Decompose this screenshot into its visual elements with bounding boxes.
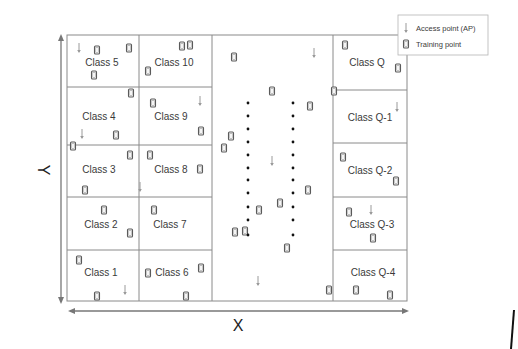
training-point-icon: [354, 286, 359, 294]
class-label: Class 2: [84, 219, 118, 230]
training-point-icon: [188, 41, 193, 49]
training-point-icon: [95, 292, 100, 300]
training-point-icon: [77, 256, 82, 264]
access-point-icon: [270, 156, 274, 166]
training-point-icon: [152, 206, 157, 214]
legend-box: [398, 15, 488, 55]
training-point-icon: [343, 41, 348, 49]
training-point-icon: [229, 132, 234, 140]
ellipsis-dot: [247, 179, 250, 182]
training-point-icon: [278, 199, 283, 207]
training-point-icon: [151, 99, 156, 107]
ellipsis-dot: [292, 179, 295, 182]
ellipsis-dot: [247, 141, 250, 144]
x-axis-label: X: [233, 317, 244, 334]
ellipsis-dot: [247, 192, 250, 195]
access-point-icon: [80, 129, 84, 139]
legend-label: Training point: [416, 40, 462, 49]
training-point-icon: [371, 234, 376, 242]
training-point-icon: [146, 269, 151, 277]
class-label: Class 6: [155, 267, 189, 278]
class-label: Class 9: [154, 111, 188, 122]
ellipsis-dot: [292, 115, 295, 118]
ellipsis-dots: [247, 102, 295, 237]
ellipsis-dot: [292, 102, 295, 105]
training-point-icon: [396, 64, 401, 72]
x-axis-arrow: [68, 308, 409, 314]
training-point-icon: [71, 142, 76, 150]
training-point-icon: [128, 151, 133, 159]
access-point-icon: [198, 96, 202, 106]
ellipsis-dot: [292, 167, 295, 170]
access-point-icon: [369, 205, 373, 215]
class-label: Class Q-4: [351, 267, 396, 278]
training-point-icon: [83, 186, 88, 194]
training-point-icon: [306, 186, 311, 194]
training-point-icon: [184, 292, 189, 300]
ellipsis-dot: [292, 206, 295, 209]
y-axis-label: Y: [35, 165, 52, 176]
training-point-icon: [285, 244, 290, 252]
training-point-icon: [243, 227, 248, 235]
class-label: Class 7: [153, 219, 187, 230]
ellipsis-dot: [292, 234, 295, 237]
legend-label: Access point (AP): [416, 24, 476, 33]
training-point-icon: [394, 177, 399, 185]
ellipsis-dot: [247, 102, 250, 105]
ellipsis-dot: [292, 219, 295, 222]
training-point-icon: [341, 153, 346, 161]
training-point-icon: [257, 206, 262, 214]
training-point-icon: [199, 127, 204, 135]
ellipsis-dot: [247, 128, 250, 131]
training-point-icon: [199, 264, 204, 272]
training-point-icon: [388, 291, 393, 299]
access-point-icon: [123, 285, 127, 295]
class-label: Class Q-3: [350, 219, 395, 230]
training-point-icon: [270, 87, 275, 95]
class-label: Class 1: [84, 267, 118, 278]
training-point-icon: [308, 102, 313, 110]
access-point-icon: [312, 48, 316, 58]
ellipsis-dot: [292, 154, 295, 157]
training-point-icon: [327, 286, 332, 294]
training-point-icon: [127, 44, 132, 52]
training-point-icon: [404, 40, 409, 48]
edge-mark: [511, 310, 514, 349]
y-axis-arrow: [58, 34, 64, 304]
ellipsis-dot: [247, 234, 250, 237]
training-point-icon: [128, 229, 133, 237]
training-point-icon: [233, 228, 238, 236]
training-point-icon: [95, 46, 100, 54]
class-label: Class Q: [349, 57, 385, 68]
ellipsis-dot: [247, 167, 250, 170]
training-point-icon: [198, 165, 203, 173]
access-point-icon: [77, 43, 81, 53]
training-point-icon: [222, 144, 227, 152]
training-point-icon: [114, 131, 119, 139]
training-point-icon: [232, 53, 237, 61]
class-label: Class 5: [85, 57, 119, 68]
access-point-icon: [395, 102, 399, 112]
legend: Access point (AP) Training point: [398, 15, 488, 55]
training-point-icon: [347, 208, 352, 216]
class-label: Class 10: [155, 57, 194, 68]
ellipsis-dot: [292, 192, 295, 195]
ellipsis-dot: [247, 154, 250, 157]
ellipsis-dot: [247, 115, 250, 118]
training-point-icon: [332, 87, 337, 95]
training-point-icon: [148, 151, 153, 159]
access-point-icon: [256, 276, 260, 286]
training-point-icon: [129, 89, 134, 97]
training-point-icon: [146, 67, 151, 75]
ellipsis-dot: [292, 141, 295, 144]
training-point-icon: [180, 42, 185, 50]
class-label: Class 4: [82, 111, 116, 122]
training-point-icon: [102, 206, 107, 214]
ellipsis-dot: [292, 128, 295, 131]
class-label: Class Q-2: [348, 165, 393, 176]
localization-grid-diagram: Y X Class 5 Class 4 Class 3 Class 2 Clas…: [0, 0, 518, 349]
class-label: Class 8: [154, 164, 188, 175]
ellipsis-dot: [247, 219, 250, 222]
class-label: Class Q-1: [348, 112, 393, 123]
class-label: Class 3: [82, 164, 116, 175]
